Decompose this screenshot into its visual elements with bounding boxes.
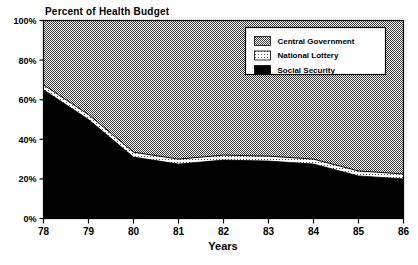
legend-swatch [255, 51, 271, 60]
y-axis: 0%20%40%60%80%100% [13, 16, 43, 224]
legend-swatch [255, 37, 271, 46]
y-axis-tick-label: 80% [18, 56, 36, 66]
y-axis-tick-label: 20% [18, 174, 36, 184]
legend-label: Central Government [278, 37, 355, 46]
x-axis-tick-label: 82 [218, 226, 230, 237]
legend-swatch [255, 66, 271, 75]
x-axis-tick-label: 83 [263, 226, 275, 237]
legend-label: National Lottery [278, 51, 339, 60]
footer-caption-fragment [4, 252, 154, 259]
x-axis-tick-label: 80 [128, 226, 140, 237]
legend-label: Social Security [278, 66, 336, 75]
y-axis-tick-label: 60% [18, 95, 36, 105]
x-axis-tick-label: 78 [38, 226, 50, 237]
x-axis-tick-label: 81 [173, 226, 185, 237]
x-axis-tick-label: 84 [308, 226, 320, 237]
x-axis-title: Years [208, 240, 237, 252]
chart-figure: Percent of Health Budget [0, 0, 418, 265]
y-axis-tick-label: 40% [18, 135, 36, 145]
chart-legend: Central GovernmentNational LotterySocial… [246, 28, 386, 75]
y-axis-tick-label: 100% [13, 16, 36, 26]
stacked-area-chart: 0%20%40%60%80%100% 787980818283848586 Ye… [0, 0, 418, 265]
x-axis-tick-label: 85 [353, 226, 365, 237]
x-axis-tick-label: 86 [398, 226, 410, 237]
x-axis: 787980818283848586 [38, 219, 410, 237]
x-axis-tick-label: 79 [83, 226, 95, 237]
y-axis-tick-label: 0% [23, 214, 36, 224]
plot-area-wrapper: 0%20%40%60%80%100% 787980818283848586 Ye… [0, 0, 418, 265]
